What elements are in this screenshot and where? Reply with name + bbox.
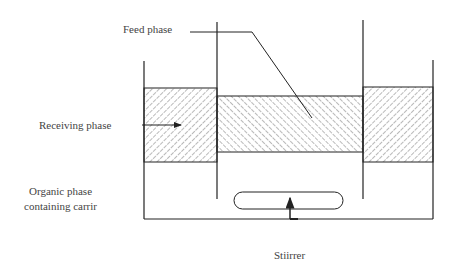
receiving-phase-right <box>363 87 433 162</box>
organic-phase-label-line1: Organic phase <box>29 185 92 198</box>
feed-phase-region <box>217 96 363 152</box>
organic-phase-label-line2: containing carrir <box>24 200 97 213</box>
receiving-phase-label: Receiving phase <box>39 119 111 132</box>
feed-phase-label: Feed phase <box>123 23 172 36</box>
stirrer-bar <box>234 192 343 209</box>
stirrer-label: Stiirrer <box>274 249 305 262</box>
liquid-membrane-apparatus-diagram <box>0 0 457 267</box>
